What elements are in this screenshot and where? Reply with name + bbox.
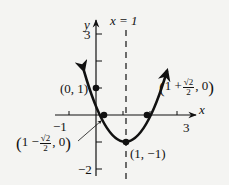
point-root-left [101, 112, 108, 119]
graph-figure: y x 3 −2 −1 3 x = 1 (0, 1) (1, −1) (1 −√… [0, 0, 229, 185]
root-left-leader [78, 121, 101, 141]
label-y-intercept: (0, 1) [60, 82, 88, 95]
fraction-denominator: 2 [183, 88, 194, 97]
y-ticks [96, 34, 102, 169]
root-right-suffix: , 0 [195, 78, 208, 93]
x-axis-label: x [199, 103, 205, 116]
asymptote-label: x = 1 [110, 14, 138, 27]
label-root-right: (1 +√22, 0) [159, 78, 214, 97]
root-left-prefix: 1 − [22, 134, 39, 149]
tick-label-y-3: 3 [84, 28, 91, 41]
point-y-intercept [93, 85, 100, 92]
paren-close: ) [65, 134, 71, 153]
tick-label-x-3: 3 [183, 121, 190, 134]
paren-close: ) [208, 78, 214, 97]
label-root-left: (1 −√22, 0) [16, 134, 71, 153]
fraction-sqrt2-over-2: √22 [40, 134, 51, 153]
tick-label-y-neg2: −2 [78, 163, 92, 176]
fraction-sqrt2-over-2: √22 [183, 78, 194, 97]
fraction-denominator: 2 [40, 144, 51, 153]
root-right-prefix: 1 + [165, 78, 182, 93]
asymptote-label-text: x = 1 [110, 13, 138, 28]
tick-label-x-neg1: −1 [53, 120, 67, 133]
label-vertex: (1, −1) [130, 147, 166, 160]
root-left-suffix: , 0 [52, 134, 65, 149]
point-vertex [123, 139, 130, 146]
point-root-right [144, 112, 151, 119]
